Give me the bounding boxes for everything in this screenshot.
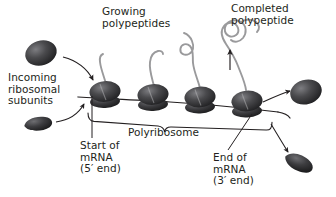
ribosome-3 xyxy=(184,85,217,114)
label-end-mrna-line1: End of xyxy=(213,152,254,164)
polypeptide-chain-1 xyxy=(100,54,106,84)
arrow-large-subunit-releases xyxy=(263,91,290,102)
free-large-subunit-released xyxy=(287,76,324,108)
label-growing-polypeptides: Growing polypeptides xyxy=(102,6,170,29)
arrow-incoming-subunits xyxy=(63,57,93,80)
polyribosome-diagram: Growing polypeptides Completed polypepti… xyxy=(0,0,336,197)
label-incoming-ribosomal-subunits: Incoming ribosomal subunits xyxy=(8,72,60,107)
free-small-subunit-released xyxy=(282,150,315,175)
label-growing-polypeptides-line2: polypeptides xyxy=(102,18,170,30)
label-incoming-subunits-line3: subunits xyxy=(8,95,60,107)
label-start-mrna-line1: Start of xyxy=(80,140,121,152)
ribosome-2 xyxy=(137,83,170,112)
label-end-mrna-line3: (3′ end) xyxy=(213,175,254,187)
free-large-subunit-incoming xyxy=(22,36,60,69)
ribosome-1 xyxy=(89,80,122,109)
label-completed-polypeptide: Completed polypeptide xyxy=(231,3,294,26)
label-start-mrna-line3: (5′ end) xyxy=(80,163,121,175)
label-incoming-subunits-line1: Incoming xyxy=(8,72,60,84)
label-completed-polypeptide-line2: polypeptide xyxy=(231,15,294,27)
label-start-of-mrna: Start of mRNA (5′ end) xyxy=(80,140,121,175)
label-end-of-mrna: End of mRNA (3′ end) xyxy=(213,152,254,187)
polypeptide-chain-2 xyxy=(150,51,163,86)
ribosome-4 xyxy=(231,89,264,118)
polypeptide-chain-4-completed xyxy=(222,20,259,90)
label-polyribosome: Polyribosome xyxy=(128,127,199,139)
label-completed-polypeptide-line1: Completed xyxy=(231,3,294,15)
polypeptide-chain-3 xyxy=(180,33,200,88)
arrow-small-subunit-releases xyxy=(271,124,288,152)
free-small-subunit-incoming xyxy=(23,115,53,133)
leader-line-end-mrna xyxy=(228,114,252,150)
label-growing-polypeptides-line1: Growing xyxy=(102,6,170,18)
